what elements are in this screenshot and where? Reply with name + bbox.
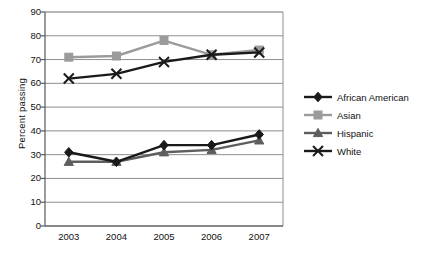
chart-legend: African AmericanAsianHispanicWhite <box>303 88 423 160</box>
legend-swatch-triangle-icon <box>303 126 333 140</box>
legend-swatch-x-icon <box>303 144 333 158</box>
series-asian <box>65 37 263 62</box>
legend-item-label: African American <box>337 92 409 103</box>
data-point-marker <box>160 140 168 150</box>
data-point-marker <box>65 53 73 61</box>
series-white <box>64 47 264 83</box>
legend-item-african-american[interactable]: African American <box>303 88 423 106</box>
data-point-marker <box>65 147 73 157</box>
legend-item-asian[interactable]: Asian <box>303 106 423 124</box>
data-point-marker <box>160 37 168 45</box>
legend-item-hispanic[interactable]: Hispanic <box>303 124 423 142</box>
legend-swatch-square-icon <box>303 108 333 122</box>
legend-item-white[interactable]: White <box>303 142 423 160</box>
legend-item-label: Hispanic <box>337 128 373 139</box>
legend-swatch-diamond-icon <box>303 90 333 104</box>
legend-item-label: Asian <box>337 110 361 121</box>
line-chart-figure: Percent passing 0102030405060708090 2003… <box>0 0 424 253</box>
legend-item-label: White <box>337 146 361 157</box>
legend-marker <box>314 111 322 119</box>
legend-marker <box>314 92 322 102</box>
data-point-marker <box>112 52 120 60</box>
